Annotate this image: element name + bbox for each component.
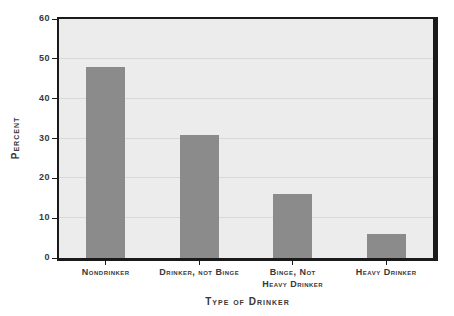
y-tick-mark-20 — [52, 178, 57, 179]
y-tick-label-0: 0 — [16, 252, 50, 262]
category-label-3: Heavy Drinker — [331, 266, 441, 278]
gridline-50 — [59, 58, 433, 59]
bar-3 — [367, 234, 406, 258]
x-axis-title: Type of Drinker — [57, 296, 438, 307]
y-tick-label-50: 50 — [16, 53, 50, 63]
category-label-line: Heavy Drinker — [238, 278, 348, 290]
y-tick-label-60: 60 — [16, 13, 50, 23]
y-tick-label-20: 20 — [16, 172, 50, 182]
y-tick-label-10: 10 — [16, 212, 50, 222]
bar-chart: Percent Type of Drinker 0102030405060Non… — [0, 0, 454, 316]
y-tick-mark-60 — [52, 19, 57, 20]
y-tick-label-40: 40 — [16, 93, 50, 103]
y-tick-mark-10 — [52, 218, 57, 219]
x-tick-mark-1 — [199, 261, 200, 265]
y-tick-mark-30 — [52, 138, 57, 139]
plot-area — [57, 17, 438, 261]
x-tick-mark-2 — [292, 261, 293, 265]
y-tick-mark-40 — [52, 98, 57, 99]
bar-0 — [86, 67, 125, 258]
bar-2 — [273, 194, 312, 258]
y-tick-mark-0 — [52, 258, 57, 259]
x-tick-mark-3 — [386, 261, 387, 265]
category-label-line: Heavy Drinker — [331, 266, 441, 278]
x-tick-mark-0 — [105, 261, 106, 265]
y-tick-label-30: 30 — [16, 133, 50, 143]
y-tick-mark-50 — [52, 58, 57, 59]
bar-1 — [180, 135, 219, 258]
